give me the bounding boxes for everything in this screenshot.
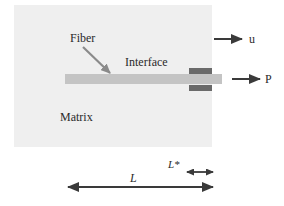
matrix-label: Matrix [60, 110, 93, 124]
fiber-pullout-diagram: Fiber Interface Matrix u P L L* [0, 0, 284, 206]
displacement-label: u [249, 32, 255, 46]
grip-top [189, 68, 212, 74]
grip-bottom [189, 85, 212, 91]
interface-label: Interface [125, 55, 168, 69]
fiber-bar [65, 74, 222, 84]
debond-length-label: L* [167, 158, 180, 170]
embedded-length-label: L [129, 171, 137, 185]
load-label: P [265, 72, 272, 86]
fiber-label: Fiber [70, 31, 95, 45]
